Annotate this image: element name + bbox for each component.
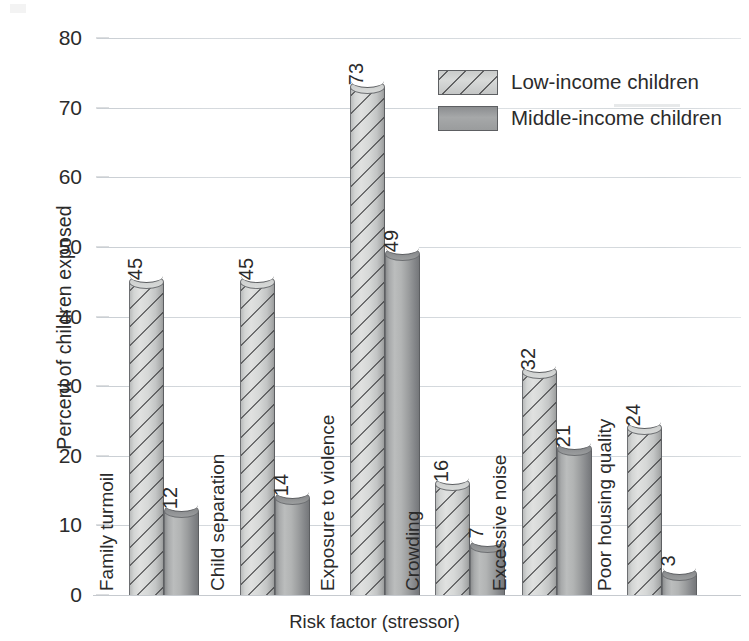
gridline <box>97 38 741 39</box>
bar-body <box>557 449 592 595</box>
bar[interactable] <box>557 442 592 595</box>
y-tick-label: 50 <box>34 235 82 259</box>
bar[interactable] <box>240 275 275 595</box>
x-category-label: Crowding <box>403 511 422 591</box>
legend-swatch-low-income <box>438 70 498 95</box>
x-category-label: Exposure to violence <box>318 415 337 591</box>
y-tick-label: 40 <box>34 305 82 329</box>
y-tick-label: 60 <box>34 165 82 189</box>
bar-value-label: 24 <box>622 393 645 437</box>
legend-label-middle-income: Middle-income children <box>511 106 722 130</box>
y-tick-label: 30 <box>34 374 82 398</box>
legend-swatch-middle-income <box>438 106 498 131</box>
bar[interactable] <box>350 80 385 595</box>
bar-value-label: 45 <box>235 247 258 291</box>
bar[interactable] <box>522 365 557 595</box>
bar-value-label: 21 <box>552 414 575 458</box>
bar-value-label: 16 <box>430 449 453 493</box>
y-tick-label: 10 <box>34 513 82 537</box>
bar[interactable] <box>129 275 164 595</box>
gridline <box>97 177 741 178</box>
bar-body <box>240 282 275 595</box>
y-tick-label: 20 <box>34 444 82 468</box>
bar-body <box>522 372 557 595</box>
y-tick-label: 70 <box>34 96 82 120</box>
x-category-label: Child separation <box>208 454 227 591</box>
legend-label-low-income: Low-income children <box>511 70 699 94</box>
bar-chart: Percent of children exposed Risk factor … <box>0 0 749 641</box>
bar-value-label: 73 <box>345 52 368 96</box>
y-tick-label: 80 <box>34 26 82 50</box>
bar-value-label: 14 <box>270 463 293 507</box>
x-category-label: Poor housing quality <box>595 419 614 591</box>
y-axis-ticks: 80706050403020100 <box>12 0 82 641</box>
y-tick-label: 0 <box>34 583 82 607</box>
bar-body <box>164 511 199 595</box>
x-category-label: Excessive noise <box>490 455 509 591</box>
bar-value-label: 3 <box>657 539 680 583</box>
bar-value-label: 7 <box>465 511 488 555</box>
x-axis-title: Risk factor (stressor) <box>0 611 749 633</box>
bar-value-label: 12 <box>159 476 182 520</box>
bar-value-label: 32 <box>517 337 540 381</box>
bar-body <box>275 498 310 595</box>
legend-item[interactable]: Low-income children <box>438 64 738 100</box>
bar-value-label: 45 <box>124 247 147 291</box>
bar-body <box>350 87 385 595</box>
legend: Low-income children Middle-income childr… <box>438 64 738 136</box>
legend-item[interactable]: Middle-income children <box>438 100 738 136</box>
bar-value-label: 49 <box>380 219 403 263</box>
x-category-label: Family turmoil <box>97 473 116 591</box>
bar-body <box>129 282 164 595</box>
